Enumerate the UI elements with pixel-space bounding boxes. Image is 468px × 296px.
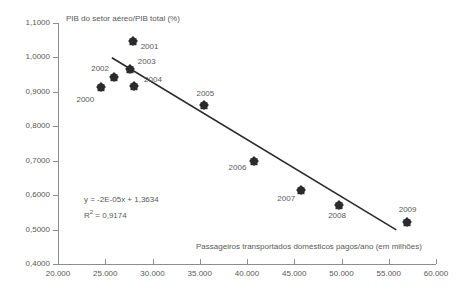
data-point-label: 2007 bbox=[277, 195, 295, 203]
data-point-marker bbox=[125, 64, 135, 74]
data-point-label: 2003 bbox=[138, 58, 156, 66]
trendline-r-squared: R2 = 0,9174 bbox=[84, 206, 159, 222]
data-point-marker bbox=[128, 36, 138, 46]
data-point-marker bbox=[402, 217, 412, 227]
data-point-label: 2005 bbox=[196, 90, 214, 98]
data-point-label: 2000 bbox=[76, 96, 94, 104]
trendline bbox=[0, 0, 468, 296]
data-point-label: 2008 bbox=[328, 212, 346, 220]
data-point-marker bbox=[249, 156, 259, 166]
trendline-equation-box: y = -2E-05x + 1,3634 R2 = 0,9174 bbox=[84, 193, 159, 222]
r-squared-value: = 0,9174 bbox=[93, 211, 127, 220]
data-point-label: 2006 bbox=[229, 164, 247, 172]
scatter-chart: 0,40000,50000,60000,70000,80000,90001,00… bbox=[0, 0, 468, 296]
data-point-label: 2002 bbox=[91, 65, 109, 73]
data-point-label: 2004 bbox=[144, 76, 162, 84]
data-point-label: 2001 bbox=[141, 43, 159, 51]
trendline-equation: y = -2E-05x + 1,3634 bbox=[84, 193, 159, 206]
data-point-label: 2009 bbox=[399, 206, 417, 214]
